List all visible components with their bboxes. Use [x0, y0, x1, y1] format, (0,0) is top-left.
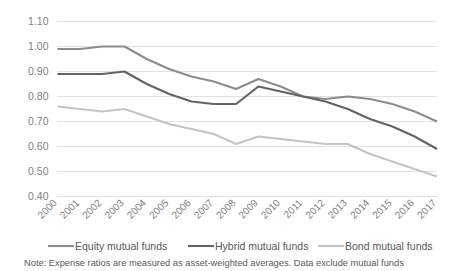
- x-tick-label: 2001: [58, 197, 82, 221]
- x-tick-label: 2005: [147, 197, 171, 221]
- y-tick-label: 0.60: [28, 140, 49, 152]
- x-tick-label: 2017: [415, 197, 439, 221]
- series-lines: [58, 47, 438, 177]
- x-tick-label: 2007: [192, 197, 216, 221]
- y-tick-label: 0.50: [28, 165, 49, 177]
- x-tick-label: 2002: [80, 197, 104, 221]
- gridlines: [58, 22, 438, 197]
- legend-label-hybrid[interactable]: Hybrid mutual funds: [215, 240, 308, 252]
- x-axis-tick-labels: 2000200120022003200420052006200720082009…: [35, 197, 438, 221]
- x-tick-label: 2011: [281, 197, 304, 220]
- y-tick-label: 0.70: [28, 115, 49, 127]
- x-tick-label: 2008: [214, 197, 238, 221]
- y-tick-label: 0.90: [28, 65, 49, 77]
- y-tick-label: 0.80: [28, 90, 49, 102]
- legend-label-bond[interactable]: Bond mutual funds: [345, 240, 433, 252]
- x-tick-label: 2012: [303, 197, 327, 221]
- x-tick-label: 2006: [169, 197, 193, 221]
- legend-label-equity[interactable]: Equity mutual funds: [75, 240, 167, 252]
- expense-ratio-line-chart: 1.101.000.900.800.700.600.500.40 2000200…: [0, 0, 449, 271]
- y-tick-label: 1.00: [28, 40, 49, 52]
- x-tick-label: 2013: [326, 197, 350, 221]
- y-tick-label: 1.10: [28, 15, 49, 27]
- x-tick-label: 2003: [102, 197, 126, 221]
- chart-note: Note: Expense ratios are measured as ass…: [24, 258, 404, 268]
- note-label: Note: Expense ratios are measured as ass…: [24, 258, 404, 268]
- x-tick-label: 2016: [393, 197, 417, 221]
- chart-legend: Equity mutual fundsHybrid mutual fundsBo…: [48, 240, 433, 252]
- chart-container: 1.101.000.900.800.700.600.500.40 2000200…: [0, 0, 449, 271]
- x-tick-label: 2010: [259, 197, 283, 221]
- x-tick-label: 2014: [348, 197, 372, 221]
- x-tick-label: 2015: [370, 197, 394, 221]
- x-tick-label: 2004: [125, 197, 149, 221]
- x-tick-label: 2009: [236, 197, 260, 221]
- y-axis-tick-labels: 1.101.000.900.800.700.600.500.40: [28, 15, 49, 202]
- series-line-bond: [58, 107, 438, 177]
- y-tick-label: 0.40: [28, 190, 49, 202]
